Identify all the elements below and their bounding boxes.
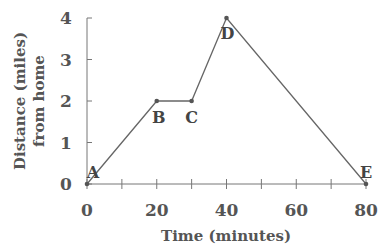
axis-ticks <box>87 18 366 189</box>
x-tick-label: 40 <box>215 200 239 220</box>
point-labels: ABCDE <box>86 24 372 182</box>
point-A <box>85 182 90 187</box>
x-tick-label: 60 <box>284 200 308 220</box>
y-axis-title-line2: from home <box>30 55 48 147</box>
y-tick-label: 0 <box>60 174 72 194</box>
y-tick-label: 4 <box>60 8 72 28</box>
y-tick-label: 2 <box>60 91 72 111</box>
point-label-E: E <box>360 163 372 182</box>
point-C <box>189 99 194 104</box>
point-label-B: B <box>152 108 166 127</box>
point-E <box>364 182 369 187</box>
x-tick-label: 0 <box>81 200 93 220</box>
point-label-A: A <box>86 163 100 182</box>
point-label-C: C <box>185 108 198 127</box>
y-tick-label: 3 <box>60 50 72 70</box>
y-tick-label: 1 <box>60 133 72 153</box>
distance-time-chart: 01234020406080 ABCDE Time (minutes) Dist… <box>0 0 384 251</box>
x-axis-title: Time (minutes) <box>161 227 291 245</box>
point-label-D: D <box>221 24 235 43</box>
tick-labels: 01234020406080 <box>60 8 378 220</box>
point-D <box>224 16 229 21</box>
y-axis-title-line1: Distance (miles) <box>11 32 29 170</box>
point-B <box>154 99 159 104</box>
x-tick-label: 20 <box>145 200 169 220</box>
x-tick-label: 80 <box>354 200 378 220</box>
